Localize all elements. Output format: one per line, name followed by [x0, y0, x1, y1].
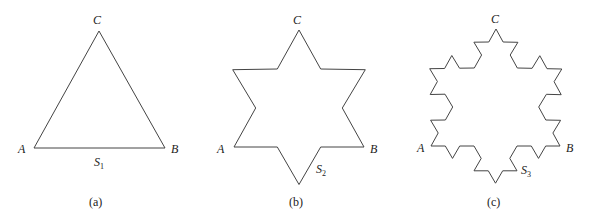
figure-b-outline [233, 30, 366, 185]
figure-caption: (a) [89, 196, 102, 208]
vertex-label-b: B [171, 143, 178, 155]
perimeter-label: S2 [316, 163, 326, 178]
vertex-label-c: C [293, 14, 301, 26]
vertex-label-b: B [370, 143, 377, 155]
figure-a-outline [34, 31, 165, 148]
koch-snowflake-diagram [0, 0, 589, 215]
perimeter-label: S1 [94, 156, 104, 171]
figure-c-outline [430, 29, 562, 183]
vertex-label-c: C [491, 13, 499, 25]
vertex-label-b: B [566, 142, 573, 154]
vertex-label-a: A [18, 143, 25, 155]
vertex-label-a: A [217, 143, 224, 155]
vertex-label-c: C [93, 14, 101, 26]
vertex-label-a: A [417, 142, 424, 154]
figure-caption: (b) [289, 196, 303, 208]
perimeter-label: S3 [521, 164, 531, 179]
figure-caption: (c) [487, 196, 500, 208]
